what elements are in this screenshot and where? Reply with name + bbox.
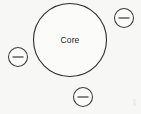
collapse-button-bottom[interactable]	[74, 88, 93, 107]
collapse-button-top-right[interactable]	[115, 9, 134, 28]
collapse-button-left[interactable]	[9, 48, 28, 67]
corner-artifact	[133, 99, 136, 106]
core-node-label: Core	[61, 35, 80, 45]
diagram-canvas: Core	[0, 0, 141, 114]
core-node[interactable]: Core	[34, 4, 107, 77]
